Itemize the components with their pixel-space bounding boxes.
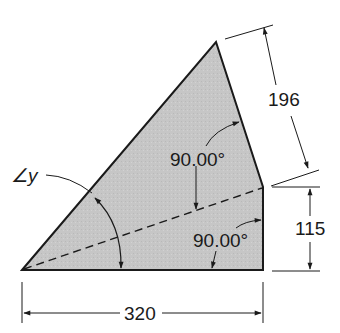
dimension-label-196: 196 (268, 90, 300, 109)
dimension-arrow-196-upper (264, 28, 276, 85)
extension-line-196-bottom (271, 170, 319, 186)
diagram-canvas: 196 115 320 90.00° 90.00° ∠y (0, 0, 340, 333)
dimension-label-320: 320 (124, 304, 156, 323)
angle-label-upper-90: 90.00° (170, 150, 225, 169)
angle-y-leader (46, 175, 92, 193)
dimension-label-115: 115 (295, 219, 325, 238)
angle-label-lower-90: 90.00° (193, 231, 248, 250)
dimension-arrow-196-lower (291, 116, 308, 168)
angle-label-y: ∠y (11, 166, 38, 185)
